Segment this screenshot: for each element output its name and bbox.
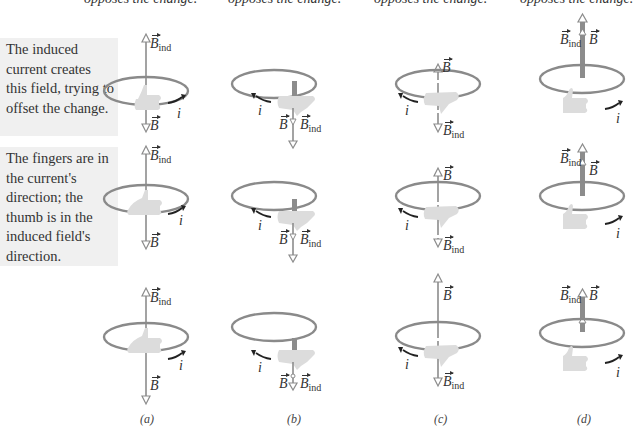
- panel-d-row3: [0, 0, 638, 427]
- label-b: B: [589, 288, 598, 304]
- column-label-d: (d): [577, 412, 591, 427]
- label-current: i: [616, 365, 620, 381]
- label-b-ind: Bind: [560, 288, 581, 305]
